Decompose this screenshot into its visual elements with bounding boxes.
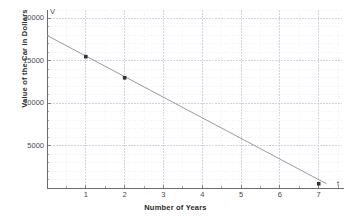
x-tick-label: 3 (153, 191, 173, 199)
y-tick-label: 10000 (23, 99, 44, 107)
plot-area (47, 10, 342, 188)
y-tick-label: 15000 (23, 57, 44, 65)
x-axis-name: t (337, 180, 339, 188)
x-tick-label: 6 (270, 191, 290, 199)
x-tick-label: 5 (231, 191, 251, 199)
data-point (317, 182, 321, 186)
x-tick-label: 7 (309, 191, 329, 199)
x-tick-label: 2 (115, 191, 135, 199)
y-tick-label: 5000 (27, 142, 44, 150)
data-point (123, 76, 127, 80)
x-tick-label: 4 (192, 191, 212, 199)
data-series-layer (47, 10, 342, 188)
x-axis-title: Number of Years (0, 203, 351, 212)
x-tick-label: 1 (76, 191, 96, 199)
data-point (84, 55, 88, 59)
series-line (47, 35, 326, 183)
chart-screenshot: Value of the Car in Dollars 500010000150… (0, 0, 351, 217)
y-axis-tick-labels: 5000100001500020000 (0, 0, 44, 217)
y-tick-label: 20000 (23, 14, 44, 22)
